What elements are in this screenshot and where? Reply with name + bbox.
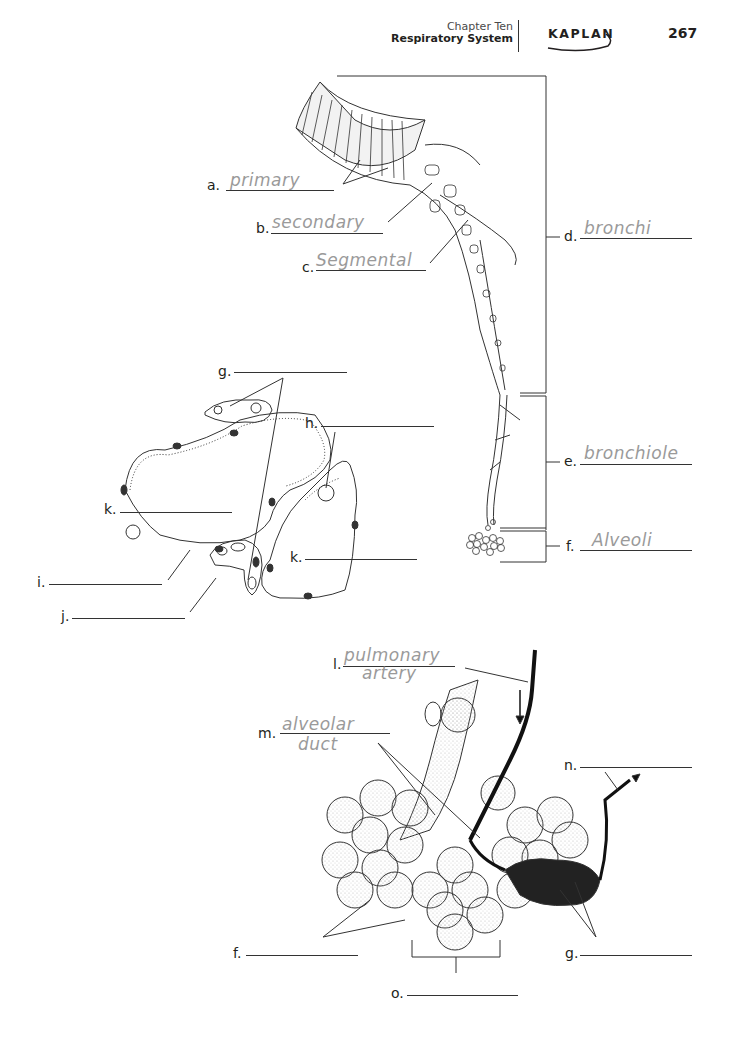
answer-blank-c[interactable] xyxy=(316,270,426,271)
answer-blank-j[interactable] xyxy=(72,618,185,619)
answer-blank-h[interactable] xyxy=(321,426,434,427)
label-c-letter: c. xyxy=(302,259,314,275)
answer-blank-f-bottom[interactable] xyxy=(246,955,358,956)
answer-blank-f[interactable] xyxy=(580,550,692,551)
respiratory-diagrams xyxy=(0,0,739,1037)
answer-m-text-line1: alveolar xyxy=(282,714,354,734)
answer-blank-g-bottom[interactable] xyxy=(580,955,692,956)
answer-blank-d[interactable] xyxy=(580,238,692,239)
label-f-bottom-letter: f. xyxy=(233,945,241,961)
label-k-right-letter: k. xyxy=(290,549,303,565)
alveolar-sacs-drawing xyxy=(322,650,640,973)
answer-blank-a[interactable] xyxy=(226,190,334,191)
label-g-letter: g. xyxy=(218,363,231,379)
label-d-letter: d. xyxy=(564,228,577,244)
bronchial-tree-drawing xyxy=(296,76,560,562)
label-i-letter: i. xyxy=(37,574,45,590)
answer-blank-o[interactable] xyxy=(407,995,518,996)
answer-m-text-line2: duct xyxy=(298,734,338,754)
label-m-letter: m. xyxy=(258,725,276,741)
answer-l-text-line1: pulmonary xyxy=(344,645,440,665)
answer-blank-b[interactable] xyxy=(271,233,383,234)
answer-blank-g-top[interactable] xyxy=(234,372,347,373)
label-j-letter: j. xyxy=(61,608,69,624)
label-f-letter: f. xyxy=(566,538,574,554)
label-k-left-letter: k. xyxy=(104,501,117,517)
label-n-letter: n. xyxy=(564,757,577,773)
answer-d-text: bronchi xyxy=(584,218,651,238)
answer-blank-k-right[interactable] xyxy=(305,559,417,560)
label-e-letter: e. xyxy=(564,453,577,469)
answer-blank-n[interactable] xyxy=(580,767,692,768)
answer-blank-i[interactable] xyxy=(49,584,162,585)
answer-b-text: secondary xyxy=(272,212,365,232)
alveolar-cross-section-drawing xyxy=(121,378,358,612)
answer-f-text: Alveoli xyxy=(592,530,652,550)
answer-a-text: primary xyxy=(230,170,300,190)
label-o-letter: o. xyxy=(391,985,404,1001)
label-b-letter: b. xyxy=(256,220,269,236)
label-h-letter: h. xyxy=(305,415,318,431)
label-g-bottom-letter: g. xyxy=(565,945,578,961)
answer-blank-e[interactable] xyxy=(580,464,692,465)
label-l-letter: l. xyxy=(333,656,341,672)
answer-e-text: bronchiole xyxy=(584,443,678,463)
answer-blank-k-left[interactable] xyxy=(120,512,232,513)
answer-l-text-line2: artery xyxy=(362,663,417,683)
label-a-letter: a. xyxy=(207,177,220,193)
answer-c-text: Segmental xyxy=(316,250,412,270)
